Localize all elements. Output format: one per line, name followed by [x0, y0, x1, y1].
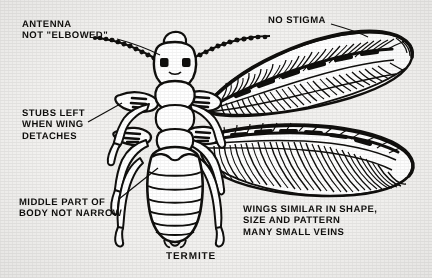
abdomen [147, 147, 202, 247]
label-wings-similar: WINGS SIMILAR IN SHAPE, SIZE AND PATTERN… [243, 204, 377, 238]
label-wings-line-2: SIZE AND PATTERN [243, 215, 340, 226]
thorax [155, 81, 194, 154]
label-stubs-line-2: WHEN WING [22, 119, 84, 130]
leader-stubs [88, 103, 122, 122]
label-antenna-line-2: NOT "ELBOWED" [22, 30, 108, 41]
label-stubs: STUBS LEFT WHEN WING DETACHES [22, 108, 85, 142]
eye-left [160, 58, 169, 67]
forewing-right-upper [205, 31, 413, 116]
label-middle-part: MIDDLE PART OF BODY NOT NARROW [19, 197, 122, 220]
label-antenna-line-1: ANTENNA [22, 19, 72, 30]
antenna-right-segments [191, 35, 268, 61]
label-stubs-line-3: DETACHES [22, 131, 77, 142]
leg-hind-right-tarsus [216, 227, 224, 246]
leg-hind-left-tarsus [115, 227, 123, 246]
leg-front-left-tarsus [108, 143, 120, 165]
label-middle-line-2: BODY NOT NARROW [19, 208, 122, 219]
figure-page: ANTENNA NOT "ELBOWED" STUBS LEFT WHEN WI… [0, 0, 432, 278]
label-no-stigma: NO STIGMA [268, 15, 326, 26]
hindwing-right-lower [200, 123, 413, 196]
label-stubs-line-1: STUBS LEFT [22, 108, 85, 119]
leader-antenna [117, 39, 160, 55]
label-antenna: ANTENNA NOT "ELBOWED" [22, 19, 108, 42]
label-stigma-line-1: NO STIGMA [268, 15, 326, 26]
eye-right [182, 58, 191, 67]
label-wings-line-1: WINGS SIMILAR IN SHAPE, [243, 204, 377, 215]
figure-caption: TERMITE [166, 251, 216, 262]
label-wings-line-3: MANY SMALL VEINS [243, 227, 344, 238]
label-middle-line-1: MIDDLE PART OF [19, 197, 105, 208]
